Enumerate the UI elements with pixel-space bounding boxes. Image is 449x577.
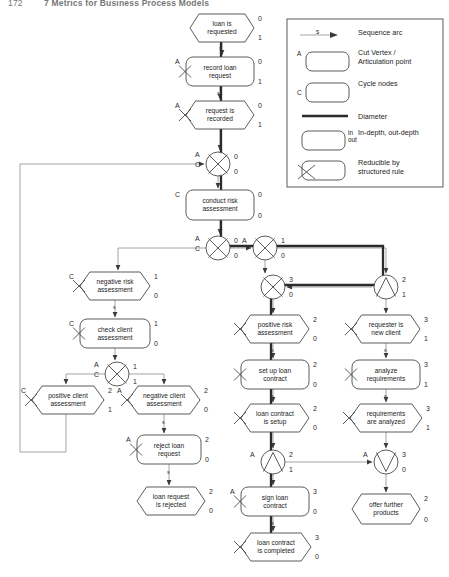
in-depth-loan-request-is-rejected: 2 [209, 488, 213, 495]
sequence-arc-label-7: s [271, 520, 274, 526]
in-depth-requester-is-new-client: 3 [424, 316, 428, 323]
out-depth-requirements-are-analyzed: 1 [426, 424, 430, 431]
node-offer-further-products[interactable] [352, 494, 420, 524]
node-reject-loan-request[interactable] [130, 435, 201, 464]
node-request-is-recorded[interactable] [179, 101, 254, 129]
in-depth-sign-loan-contract: 3 [313, 488, 317, 495]
node-gateway-and-split-1[interactable] [261, 450, 285, 474]
sequence-arc-label-1: s [217, 90, 220, 96]
sequence-arc-label-2: s [113, 304, 116, 310]
node-gateway-xor-split-1[interactable] [206, 236, 230, 260]
marker-c-check-client-assessment: C [69, 320, 74, 327]
in-depth-requirements-are-analyzed: 3 [426, 405, 430, 412]
node-positive-client-assessment[interactable] [25, 386, 104, 414]
out-depth-gateway-or-join-1: 0 [402, 466, 406, 473]
node-loan-is-requested[interactable] [190, 14, 254, 42]
marker-c-negative-risk-assessment: C [69, 273, 74, 280]
in-depth-gateway-xor-split-3: 1 [133, 363, 137, 370]
marker-a-record-loan-request: A [175, 58, 180, 65]
in-depth-gateway-xor-split-1: 0 [234, 237, 238, 244]
node-check-client-assessment[interactable] [73, 319, 150, 348]
legend-cycle-nodes-symbol [306, 83, 349, 102]
out-depth-gateway-xor-split-2: 0 [281, 252, 285, 259]
marker-a-gateway-xor-split-1: A [195, 235, 200, 242]
in-depth-gateway-xor-split-2: 1 [281, 237, 285, 244]
node-gateway-xor-split-3[interactable] [105, 362, 129, 386]
in-depth-positive-client-assessment: 2 [108, 387, 112, 394]
in-depth-gateway-and-split-1: 2 [289, 451, 293, 458]
in-depth-negative-client-assessment: 2 [204, 387, 208, 394]
out-depth-gateway-xor-split-1: 0 [234, 252, 238, 259]
in-depth-request-is-recorded: 0 [258, 102, 262, 109]
out-depth-sign-loan-contract: 0 [313, 508, 317, 515]
legend-reducible-symbol [298, 161, 345, 180]
node-conduct-risk-assessment[interactable] [186, 190, 254, 220]
marker-a-sign-loan-contract: A [230, 488, 235, 495]
marker-a-reject-loan-request: A [126, 436, 131, 443]
in-depth-conduct-risk-assessment: 0 [258, 191, 262, 198]
node-loan-request-is-rejected[interactable] [137, 487, 205, 515]
marker-c-positive-client-assessment: C [21, 387, 26, 394]
node-loan-contract-is-setup[interactable] [234, 404, 309, 432]
out-depth-loan-request-is-rejected: 0 [209, 507, 213, 514]
marker-c-gateway-xor-split-1: C [195, 245, 200, 252]
in-depth-gateway-xor-join-1: 0 [234, 153, 238, 160]
node-set-up-loan-contract[interactable] [234, 360, 309, 389]
out-depth-gateway-xor-join-1: 0 [234, 168, 238, 175]
node-negative-risk-assessment[interactable] [73, 272, 150, 300]
out-depth-record-loan-request: 1 [258, 78, 262, 85]
sequence-arc-label-4: s [167, 469, 170, 475]
sequence-arc-label-0: s [219, 45, 222, 51]
legend-marker-a: A [297, 50, 301, 57]
in-depth-loan-contract-is-completed: 3 [315, 534, 319, 541]
legend-arc-label-s: s [316, 28, 319, 35]
out-depth-positive-client-assessment: 1 [108, 406, 112, 413]
out-depth-gateway-xor-join-2: 0 [289, 291, 293, 298]
marker-a-gateway-and-split-1: A [250, 451, 255, 458]
sequence-arc-label-9: s [384, 393, 387, 399]
in-depth-record-loan-request: 0 [258, 58, 262, 65]
out-depth-check-client-assessment: 0 [154, 340, 158, 347]
node-gateway-xor-join-2[interactable] [261, 275, 285, 299]
in-depth-gateway-or-join-1: 3 [402, 451, 406, 458]
in-depth-set-up-loan-contract: 2 [313, 361, 317, 368]
out-depth-requester-is-new-client: 1 [424, 335, 428, 342]
out-depth-loan-contract-is-setup: 0 [313, 424, 317, 431]
node-gateway-and-join-1[interactable] [374, 275, 398, 299]
out-depth-analyze-requirements: 1 [424, 381, 428, 388]
out-depth-conduct-risk-assessment: 0 [258, 212, 262, 219]
marker-c-conduct-risk-assessment: C [175, 191, 180, 198]
out-depth-gateway-and-split-1: 1 [289, 466, 293, 473]
marker-a-request-is-recorded: A [175, 102, 180, 109]
node-sign-loan-contract[interactable] [234, 487, 309, 516]
node-gateway-xor-join-1[interactable] [206, 152, 230, 176]
in-depth-check-client-assessment: 1 [154, 320, 158, 327]
legend-label-diameter: Diameter [358, 112, 446, 121]
node-requirements-are-analyzed[interactable] [343, 404, 422, 432]
out-depth-reject-loan-request: 0 [205, 456, 209, 463]
out-depth-positive-risk-assessment: 0 [313, 335, 317, 342]
legend-label-reducible: Reducible by structured rule [358, 158, 446, 176]
node-record-loan-request[interactable] [179, 57, 254, 86]
node-gateway-xor-split-2[interactable] [253, 236, 277, 260]
marker-c-gateway-xor-join-1: C [195, 161, 200, 168]
out-depth-loan-is-requested: 1 [258, 34, 262, 41]
node-analyze-requirements[interactable] [345, 360, 420, 389]
marker-a-negative-client-assessment: A [117, 387, 122, 394]
node-requester-is-new-client[interactable] [345, 315, 420, 343]
sequence-arc-label-3: s [162, 419, 165, 425]
in-depth-reject-loan-request: 2 [205, 436, 209, 443]
node-positive-risk-assessment[interactable] [234, 315, 309, 343]
in-depth-offer-further-products: 2 [424, 495, 428, 502]
out-depth-offer-further-products: 0 [424, 516, 428, 523]
in-depth-gateway-and-join-1: 2 [402, 276, 406, 283]
legend-in-out-symbol [302, 131, 345, 150]
in-depth-analyze-requirements: 3 [424, 361, 428, 368]
in-depth-positive-risk-assessment: 2 [313, 316, 317, 323]
out-depth-loan-contract-is-completed: 0 [315, 553, 319, 560]
node-gateway-or-join-1[interactable] [374, 450, 398, 474]
sequence-arc-label-8: s [384, 347, 387, 353]
legend-label-cut-vertex: Cut Vertex / Articulation point [358, 48, 446, 66]
node-negative-client-assessment[interactable] [121, 386, 200, 414]
node-loan-contract-is-completed[interactable] [234, 533, 311, 561]
